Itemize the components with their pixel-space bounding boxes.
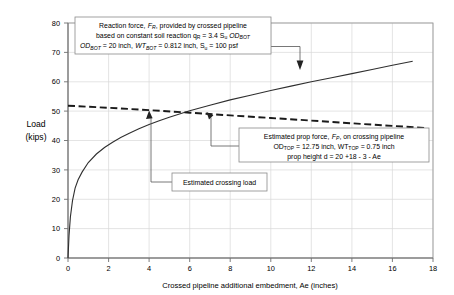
x-tick-16: 16: [388, 264, 396, 273]
x-tick-10: 10: [267, 264, 275, 273]
annotation-prop-line3: prop height d = 20 +18 - 3 - Ae: [287, 153, 381, 161]
arrow-head-reaction: [297, 61, 304, 71]
annotation-prop-force: Estimated prop force,FP, on crossing pip…: [207, 112, 430, 162]
x-axis-title: Crossed pipeline additional embedment, A…: [162, 281, 338, 290]
y-tick-30: 30: [52, 166, 60, 175]
y-axis-title-line1: Load: [26, 119, 45, 129]
y-tick-80: 80: [52, 19, 60, 28]
chart-screenshot: 0 10 20 30 40 50 60 70 80 Load (kips) 0: [0, 0, 454, 295]
x-tick-8: 8: [228, 264, 232, 273]
y-axis-title-line2: (kips): [25, 132, 46, 142]
annotation-reaction-force: Reaction force,FR, provided by crossed p…: [75, 17, 303, 70]
x-tick-2: 2: [107, 264, 111, 273]
series-prop-force-dashed: [68, 106, 425, 128]
y-tick-70: 70: [52, 48, 60, 57]
y-tick-60: 60: [52, 77, 60, 86]
x-axis: 0 2 4 6 8 10 12 14 16 18 Crossed pipelin…: [66, 258, 437, 290]
arrow-head-crossing: [146, 111, 153, 120]
y-tick-40: 40: [52, 136, 60, 145]
y-tick-10: 10: [52, 224, 60, 233]
x-tick-6: 6: [188, 264, 192, 273]
x-tick-18: 18: [429, 264, 437, 273]
y-tick-50: 50: [52, 107, 60, 116]
chart-canvas: 0 10 20 30 40 50 60 70 80 Load (kips) 0: [0, 0, 454, 295]
x-tick-4: 4: [147, 264, 151, 273]
x-tick-14: 14: [348, 264, 356, 273]
y-tick-0: 0: [56, 254, 60, 263]
x-tick-0: 0: [66, 264, 70, 273]
y-axis: 0 10 20 30 40 50 60 70 80 Load (kips): [25, 19, 68, 263]
x-tick-12: 12: [307, 264, 315, 273]
annotation-crossing-label: Estimated crossing load: [183, 179, 256, 187]
y-tick-20: 20: [52, 195, 60, 204]
